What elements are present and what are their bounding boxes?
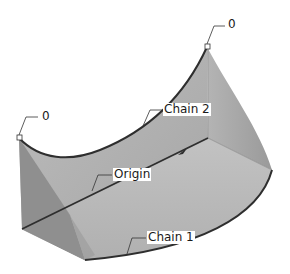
- chain-1-label: Chain 1: [147, 231, 195, 244]
- leader-top-right: [207, 26, 225, 44]
- chain-2-label: Chain 2: [163, 103, 211, 116]
- origin-label: Origin: [113, 168, 151, 181]
- top-right-vertex-label: 0: [227, 18, 237, 31]
- surface-drawing: [0, 0, 290, 274]
- surface-diagram: 0 0 Chain 2 Origin Chain 1: [0, 0, 290, 274]
- vertex-marker-top-right[interactable]: [205, 44, 210, 49]
- vertex-marker-left[interactable]: [17, 135, 22, 140]
- left-vertex-label: 0: [41, 110, 51, 123]
- leader-left: [19, 117, 38, 135]
